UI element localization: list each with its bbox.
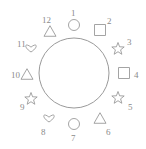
shape-triangle-12 [44,26,56,37]
number-label-12: 12 [42,16,51,25]
number-label-6: 6 [106,128,111,137]
shape-star-9 [25,93,37,105]
shape-circle-1 [69,20,80,31]
shape-triangle-6 [94,113,106,124]
shape-heart-11 [26,45,36,52]
number-label-9: 9 [20,103,25,112]
number-label-10: 10 [11,71,20,80]
number-label-2: 2 [107,17,112,26]
shape-triangle-10 [21,69,33,80]
number-label-7: 7 [71,134,76,143]
shape-star-3 [112,43,124,55]
shape-circle-7 [69,119,80,130]
shape-star-5 [112,92,124,104]
number-label-5: 5 [128,103,133,112]
number-label-3: 3 [127,38,132,47]
clock-diagram-svg [0,0,146,149]
number-label-8: 8 [41,128,46,137]
shape-square-2 [95,25,106,36]
center-circle [39,38,109,108]
shape-heart-8 [44,115,54,122]
shape-square-4 [119,68,130,79]
clock-shape-diagram: 123456789101112 [0,0,146,149]
number-label-1: 1 [71,9,76,18]
number-label-4: 4 [134,71,139,80]
number-label-11: 11 [17,40,26,49]
